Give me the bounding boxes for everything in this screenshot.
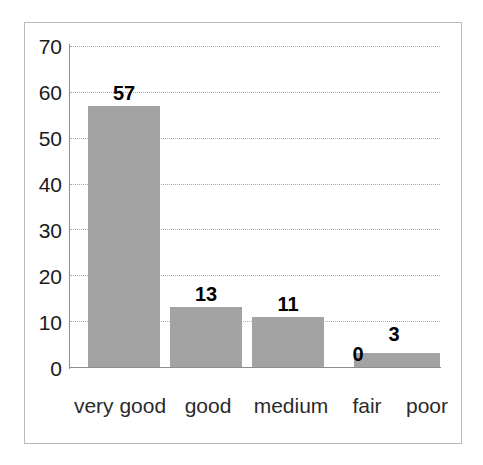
y-tick-label-70: 70 <box>28 36 62 57</box>
y-tick-label-50: 50 <box>28 128 62 149</box>
x-axis-line <box>69 367 441 368</box>
x-label-medium: medium <box>241 395 341 416</box>
bar-value-poor: 3 <box>358 324 430 344</box>
bar-value-good: 13 <box>170 284 242 304</box>
y-tick-label-40: 40 <box>28 174 62 195</box>
bar-very-good[interactable] <box>88 106 160 367</box>
y-tick-label-30: 30 <box>28 220 62 241</box>
y-tick-label-10: 10 <box>28 312 62 333</box>
gridline-70 <box>70 46 440 47</box>
x-label-very-good: very good <box>64 395 176 416</box>
chart-page: 70 60 50 40 30 20 10 0 57 13 11 0 3 very… <box>0 0 483 465</box>
bar-value-fair: 0 <box>322 344 394 364</box>
y-tick-label-60: 60 <box>28 82 62 103</box>
x-label-poor: poor <box>396 395 458 416</box>
bar-value-very-good: 57 <box>88 83 160 103</box>
bar-medium[interactable] <box>252 317 324 367</box>
y-tick-label-0: 0 <box>28 358 62 379</box>
x-label-good: good <box>174 395 242 416</box>
x-axis-category-labels: very good good medium fair poor <box>0 395 483 425</box>
bar-good[interactable] <box>170 307 242 367</box>
x-label-fair: fair <box>339 395 395 416</box>
plot-area: 57 13 11 0 3 <box>70 46 440 367</box>
bar-value-medium: 11 <box>252 294 324 314</box>
y-tick-label-20: 20 <box>28 266 62 287</box>
